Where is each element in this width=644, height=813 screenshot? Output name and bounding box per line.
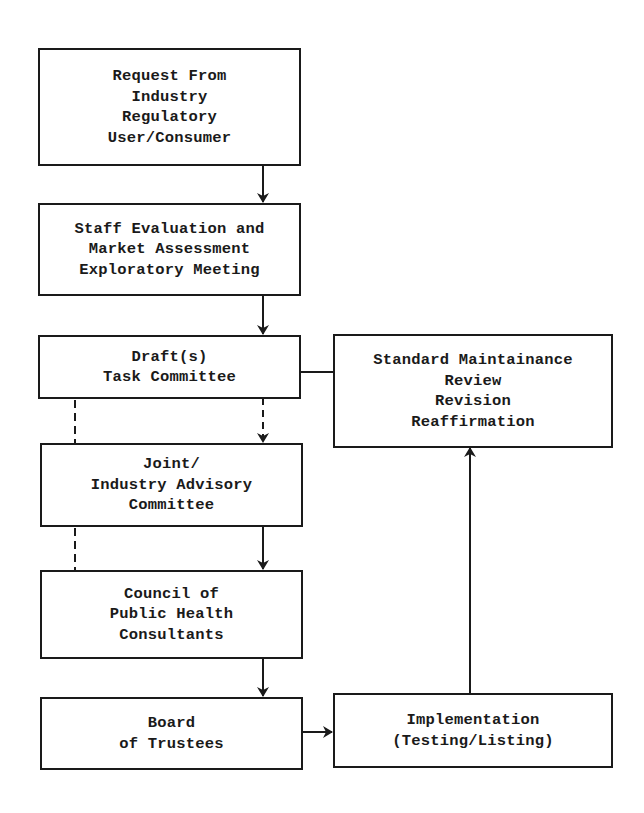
node-board-of-trustees: Board of Trustees [40,697,303,770]
node-text: Draft(s) [131,347,207,368]
node-text: of Trustees [119,734,224,755]
node-text: Task Committee [103,367,236,388]
node-text: Industry [131,87,207,108]
node-text: Request From [112,66,226,87]
node-text: Council of [124,584,219,605]
node-text: Joint/ [143,454,200,475]
node-text: Consultants [119,625,224,646]
node-text: Implementation [406,710,539,731]
node-text: Industry Advisory [91,475,253,496]
node-draft-task-committee: Draft(s) Task Committee [38,335,301,399]
node-text: Committee [129,495,215,516]
node-text: User/Consumer [108,128,232,149]
node-text: Reaffirmation [411,412,535,433]
node-council-public-health: Council of Public Health Consultants [40,570,303,659]
node-text: Review [444,371,501,392]
node-text: (Testing/Listing) [392,731,554,752]
node-standard-maintenance: Standard Maintainance Review Revision Re… [333,334,613,448]
node-text: Public Health [110,604,234,625]
node-text: Revision [435,391,511,412]
node-joint-industry-advisory-committee: Joint/ Industry Advisory Committee [40,443,303,527]
node-staff-evaluation: Staff Evaluation and Market Assessment E… [38,203,301,296]
node-request: Request From Industry Regulatory User/Co… [38,48,301,166]
node-implementation: Implementation (Testing/Listing) [333,693,613,768]
node-text: Board [148,713,196,734]
node-text: Standard Maintainance [373,350,573,371]
node-text: Regulatory [122,107,217,128]
node-text: Staff Evaluation and [74,219,264,240]
node-text: Market Assessment [89,239,251,260]
node-text: Exploratory Meeting [79,260,260,281]
